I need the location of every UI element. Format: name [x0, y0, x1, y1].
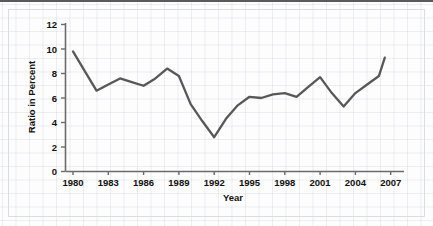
line-chart: 12 10 8 6 4 2 0 — [0, 0, 433, 226]
y-tick-label: 10 — [46, 44, 57, 55]
x-tick-label: 1989 — [168, 177, 189, 188]
chart-page: 12 10 8 6 4 2 0 — [0, 0, 433, 226]
y-tick-label: 4 — [52, 117, 58, 128]
x-tick-label: 1992 — [204, 177, 225, 188]
x-tick-label: 1980 — [62, 177, 83, 188]
data-series-line — [73, 51, 385, 137]
x-tick-label: 1986 — [133, 177, 154, 188]
y-axis-title: Ratio in Percent — [26, 60, 37, 133]
y-tick-label: 2 — [52, 142, 57, 153]
y-axis-ticks — [61, 25, 65, 172]
x-tick-label: 1983 — [98, 177, 119, 188]
x-tick-label: 2007 — [380, 177, 401, 188]
y-tick-label: 12 — [46, 19, 57, 30]
x-tick-label: 1998 — [274, 177, 295, 188]
y-tick-label: 8 — [52, 68, 57, 79]
x-tick-label: 2001 — [310, 177, 332, 188]
y-tick-label: 6 — [52, 93, 57, 104]
y-tick-label: 0 — [52, 166, 57, 177]
chart-svg: 12 10 8 6 4 2 0 — [0, 0, 433, 226]
x-axis-title: Year — [223, 192, 243, 203]
y-axis-tick-labels: 12 10 8 6 4 2 0 — [46, 19, 57, 177]
x-tick-label: 1995 — [239, 177, 261, 188]
x-tick-label: 2004 — [345, 177, 367, 188]
x-axis-tick-labels: 1980 1983 1986 1989 1992 1995 1998 2001 … — [62, 177, 401, 188]
